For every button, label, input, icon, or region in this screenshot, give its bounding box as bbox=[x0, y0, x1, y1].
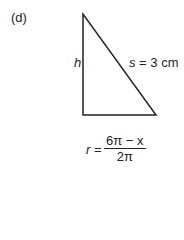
formula-fraction: 6π − x 2π bbox=[104, 133, 146, 165]
height-label: h bbox=[74, 55, 81, 70]
formula-equals: = bbox=[90, 142, 101, 157]
formula-lhs: r = bbox=[86, 142, 102, 157]
hypotenuse-value: = 3 cm bbox=[136, 55, 179, 70]
formula-numerator: 6π − x bbox=[104, 133, 146, 149]
formula-denominator: 2π bbox=[104, 149, 146, 165]
hypotenuse-label: s = 3 cm bbox=[129, 55, 179, 70]
